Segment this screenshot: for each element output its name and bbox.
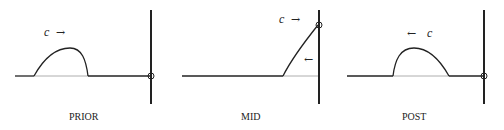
speed-label: c bbox=[44, 25, 50, 39]
speed-label: c bbox=[279, 12, 285, 26]
pulse bbox=[34, 48, 88, 76]
panel-prior: c → PRIOR bbox=[15, 10, 154, 122]
reflected-arrow: ← bbox=[304, 53, 313, 66]
direction-arrow: ← bbox=[407, 27, 416, 40]
panel-post: ← c POST bbox=[347, 10, 487, 122]
pulse bbox=[393, 48, 449, 76]
caption-post: POST bbox=[402, 111, 426, 122]
speed-label: c bbox=[427, 26, 433, 40]
direction-arrow: → bbox=[291, 13, 300, 26]
wave-reflection-diagram: c → PRIOR c → ← MID ← c POST bbox=[0, 0, 504, 130]
pulse bbox=[283, 25, 318, 76]
panel-mid: c → ← MID bbox=[182, 10, 322, 122]
caption-mid: MID bbox=[241, 111, 260, 122]
direction-arrow: → bbox=[56, 26, 65, 39]
caption-prior: PRIOR bbox=[69, 111, 99, 122]
